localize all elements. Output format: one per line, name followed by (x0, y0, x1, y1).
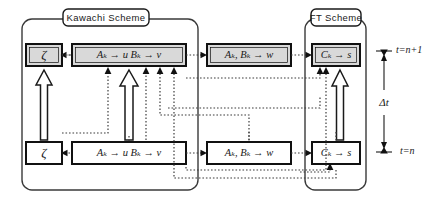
time-label-top: t=n+1 (396, 44, 422, 55)
arrowhead-feedback-ab-to-c (323, 67, 330, 74)
diagram-canvas: Kawachi Scheme FT Scheme ζ Aₖ → u Bₖ → v… (0, 0, 431, 205)
feedback-zeta-n-to-ab-np1 (62, 72, 108, 133)
feedback-bus-mid (168, 96, 320, 108)
box-c-top-label: Cₖ → s (321, 49, 352, 60)
arrowhead-feedback-zeta-to-ab (105, 67, 112, 74)
box-zeta-top-label: ζ (41, 47, 47, 62)
arrowhead-feedback-ab-to-ab (143, 67, 150, 74)
feedback-w-n-to-ab-np1 (160, 72, 249, 140)
group-title-kawachi: Kawachi Scheme (67, 12, 146, 23)
delta-t-label: Δt (378, 96, 389, 108)
time-label-bottom: t=n (400, 145, 415, 156)
carry-arrow-c (332, 70, 348, 140)
box-w-bottom-label: Aₖ, Bₖ → w (224, 147, 274, 158)
time-shaft-arrowhead-down (381, 142, 387, 149)
arrowhead-feedback-w-to-ab (157, 67, 164, 74)
box-ab-top-label: Aₖ → u Bₖ → v (96, 49, 162, 60)
group-title-ft: FT Scheme (310, 12, 363, 23)
time-shaft-arrowhead-up (381, 54, 387, 61)
scheme-flow-diagram: Kawachi Scheme FT Scheme ζ Aₖ → u Bₖ → v… (0, 0, 431, 205)
box-zeta-bottom-label: ζ (41, 145, 47, 160)
carry-arrow-ab (120, 70, 138, 140)
box-w-top-label: Aₖ, Bₖ → w (224, 49, 274, 60)
box-c-bottom-label: Cₖ → s (321, 147, 352, 158)
box-ab-bottom-label: Aₖ → u Bₖ → v (96, 147, 162, 158)
carry-arrow-zeta (36, 70, 52, 140)
feedback-abtop-to-ctop (186, 72, 320, 78)
arrowhead-abtop-to-ctop (317, 67, 324, 74)
arrowhead-feedback-c-to-ab (171, 67, 178, 74)
